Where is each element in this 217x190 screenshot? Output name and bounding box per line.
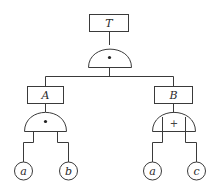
and-dot-icon (44, 120, 47, 123)
lead-B-c (186, 132, 197, 163)
basic-event-label: b (65, 165, 72, 178)
basic-event-label: a (149, 165, 156, 178)
basic-event-a-left: a (15, 162, 33, 180)
top-event-T: T (90, 15, 129, 32)
event-B-label: B (168, 89, 177, 102)
basic-event-a-right: a (144, 162, 162, 180)
gate-B-or: + (153, 112, 196, 131)
lead-A-b (58, 132, 69, 163)
basic-event-label: c (193, 165, 199, 178)
fault-tree-diagram: T A a b B + (0, 0, 217, 190)
basic-event-label: a (20, 165, 27, 178)
basic-event-c: c (188, 162, 206, 180)
event-A-label: A (41, 89, 50, 102)
event-A: A (28, 87, 64, 104)
event-B: B (155, 87, 193, 104)
top-and-gate (89, 49, 132, 67)
lead-A-a (24, 132, 34, 163)
and-dot-icon (108, 56, 111, 59)
basic-event-b: b (60, 162, 78, 180)
or-plus-icon: + (170, 118, 178, 129)
lead-B-a (153, 132, 163, 163)
gate-A-and (25, 112, 67, 131)
